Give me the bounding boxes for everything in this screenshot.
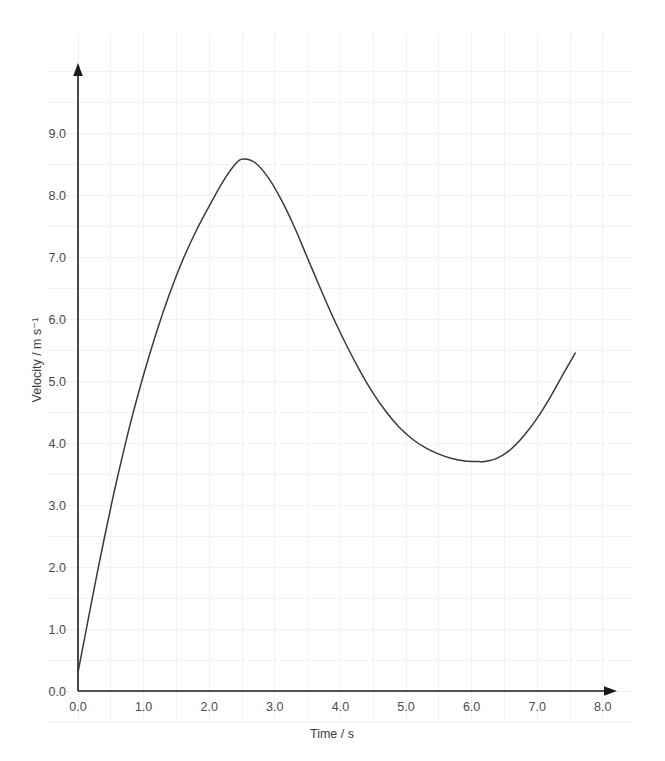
x-tick-label: 2.0 — [201, 700, 218, 714]
y-axis-title: Velocity / m s⁻¹ — [30, 318, 44, 403]
y-tick-label: 6.0 — [49, 313, 66, 327]
y-tick-label: 0.0 — [49, 685, 66, 699]
y-axis-arrow-icon — [73, 63, 83, 76]
y-tick-label: 4.0 — [49, 437, 66, 451]
x-tick-label: 8.0 — [594, 700, 611, 714]
y-tick-label: 7.0 — [49, 251, 66, 265]
grid-lines — [47, 33, 633, 723]
x-tick-label: 6.0 — [463, 700, 480, 714]
x-tick-label: 5.0 — [397, 700, 414, 714]
velocity-curve — [78, 159, 575, 672]
y-tick-label: 3.0 — [49, 499, 66, 513]
x-tick-label: 4.0 — [332, 700, 349, 714]
chart-canvas: 0.01.02.03.04.05.06.07.08.0 0.01.02.03.0… — [0, 0, 665, 761]
x-tick-label: 7.0 — [529, 700, 546, 714]
x-tick-label: 3.0 — [266, 700, 283, 714]
y-tick-label: 8.0 — [49, 189, 66, 203]
y-tick-label: 2.0 — [49, 561, 66, 575]
x-tick-label: 1.0 — [135, 700, 152, 714]
x-axis-arrow-icon — [604, 686, 617, 696]
x-axis-title: Time / s — [310, 727, 354, 741]
velocity-time-chart: 0.01.02.03.04.05.06.07.08.0 0.01.02.03.0… — [0, 0, 665, 761]
y-tick-label: 1.0 — [49, 623, 66, 637]
y-tick-label: 5.0 — [49, 375, 66, 389]
x-axis-tick-labels: 0.01.02.03.04.05.06.07.08.0 — [69, 700, 611, 714]
x-tick-label: 0.0 — [69, 700, 86, 714]
axes — [73, 63, 617, 696]
y-tick-label: 9.0 — [49, 127, 66, 141]
